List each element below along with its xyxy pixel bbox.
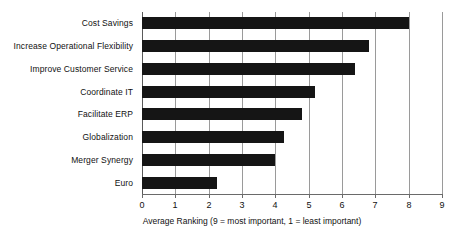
x-tick-mark xyxy=(309,194,310,198)
x-tick-mark xyxy=(409,194,410,198)
x-tick-mark xyxy=(275,194,276,198)
category-label: Cost Savings xyxy=(82,18,133,28)
x-tick-label: 9 xyxy=(430,200,454,211)
gridline xyxy=(375,12,376,194)
bar xyxy=(142,86,315,98)
x-tick-label: 4 xyxy=(263,200,287,211)
category-label: Increase Operational Flexibility xyxy=(14,41,133,51)
x-tick-mark xyxy=(142,194,143,198)
x-tick-mark xyxy=(242,194,243,198)
bar xyxy=(142,177,217,189)
plot-area xyxy=(142,12,442,194)
x-tick-label: 3 xyxy=(230,200,254,211)
category-axis-labels: Cost Savings Increase Operational Flexib… xyxy=(0,12,137,194)
x-axis-title-text: Average Ranking (9 = most important, 1 =… xyxy=(143,216,362,227)
x-tick-mark xyxy=(442,194,443,198)
gridline xyxy=(442,12,443,194)
gridline xyxy=(409,12,410,194)
x-tick-mark xyxy=(342,194,343,198)
x-tick-label: 7 xyxy=(363,200,387,211)
category-label: Globalization xyxy=(83,132,133,142)
bar xyxy=(142,131,284,143)
bar xyxy=(142,17,409,29)
x-tick-label: 1 xyxy=(163,200,187,211)
bar xyxy=(142,40,369,52)
x-tick-label: 0 xyxy=(130,200,154,211)
x-tick-mark xyxy=(375,194,376,198)
x-tick-label: 2 xyxy=(197,200,221,211)
category-label: Coordinate IT xyxy=(80,87,133,97)
category-label: Merger Synergy xyxy=(71,155,133,165)
category-label: Euro xyxy=(115,178,133,188)
bar xyxy=(142,63,355,75)
x-axis-line xyxy=(142,194,443,195)
bar-chart: Cost Savings Increase Operational Flexib… xyxy=(0,0,468,235)
bar xyxy=(142,154,275,166)
x-tick-mark xyxy=(175,194,176,198)
category-label: Facilitate ERP xyxy=(78,109,133,119)
bar xyxy=(142,108,302,120)
x-tick-mark xyxy=(209,194,210,198)
x-tick-label: 5 xyxy=(297,200,321,211)
category-label: Improve Customer Service xyxy=(30,64,133,74)
x-tick-label: 6 xyxy=(330,200,354,211)
x-axis-title: Average Ranking (9 = most important, 1 =… xyxy=(0,216,468,227)
x-tick-label: 8 xyxy=(397,200,421,211)
